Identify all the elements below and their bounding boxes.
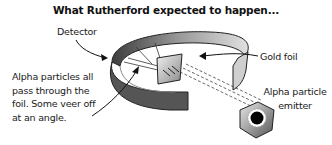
alpha-particle-beams xyxy=(180,64,261,108)
gold-foil-pointer-arrow xyxy=(203,54,258,56)
gold-foil-label: Gold foil xyxy=(260,50,298,64)
detector-label: Detector xyxy=(57,25,97,39)
emitter-label: Alpha particle emitter xyxy=(262,85,328,112)
alpha-particles-description: Alpha particles all pass through the foi… xyxy=(12,70,102,124)
